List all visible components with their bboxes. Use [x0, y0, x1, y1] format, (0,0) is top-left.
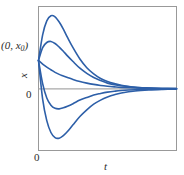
- initial-point-label: (0, x0): [1, 40, 28, 51]
- initial-point-prefix: (0,: [1, 39, 16, 51]
- x-axis-label: t: [104, 161, 107, 172]
- y-axis-label: x: [18, 73, 29, 78]
- solution-curves: [39, 15, 177, 138]
- initial-point-subscript: 0: [21, 44, 25, 53]
- plot-frame: [39, 7, 177, 151]
- x-axis-zero-tick-label: 0: [34, 152, 40, 163]
- curve-curve-4-mild-undershoot: [39, 61, 177, 109]
- curve-curve-1-overshoot-high: [39, 15, 177, 88]
- curve-curve-3-monotone-decay: [39, 61, 177, 89]
- y-axis-zero-tick-label: 0: [26, 89, 32, 100]
- initial-point-suffix: ): [25, 39, 29, 51]
- figure-container: (0, x0) x 0 0 t: [0, 0, 184, 175]
- initial-point-variable: x: [16, 39, 21, 51]
- curve-curve-5-deep-undershoot: [39, 61, 177, 139]
